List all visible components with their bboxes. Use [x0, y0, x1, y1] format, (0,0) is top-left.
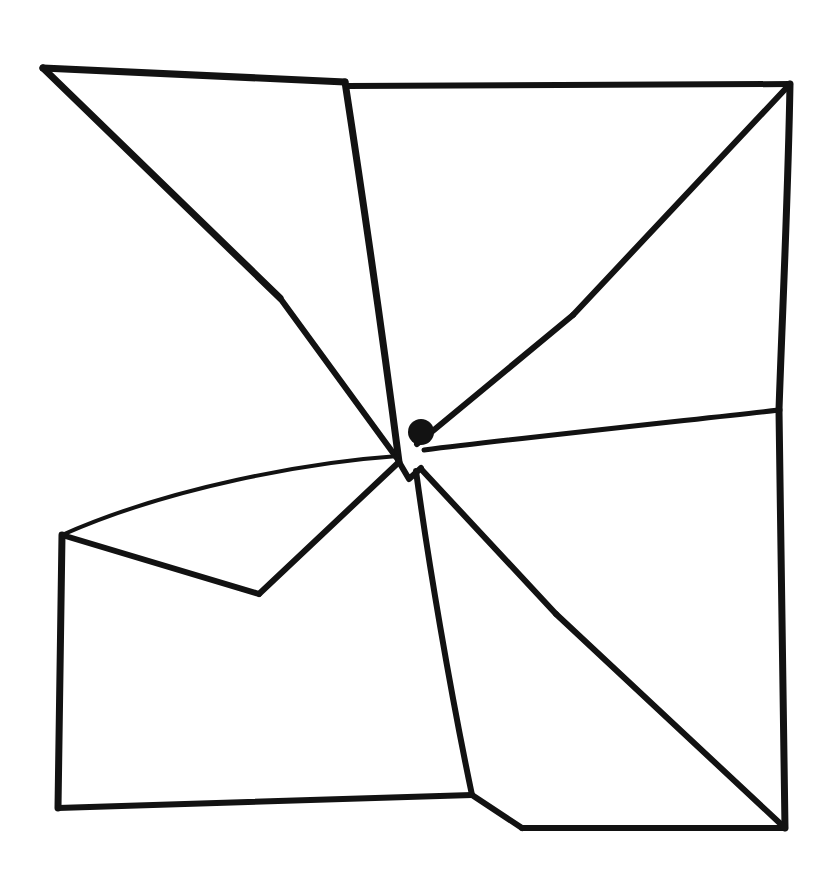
center-pin-dot [408, 419, 434, 445]
pinwheel-drawing [0, 0, 840, 889]
lower-left-blade-edge-left [58, 535, 62, 808]
upper-right-blade-outline [347, 84, 790, 86]
pinwheel-figure: Pinwheel Hand-drawn black ink line drawi… [0, 0, 840, 889]
